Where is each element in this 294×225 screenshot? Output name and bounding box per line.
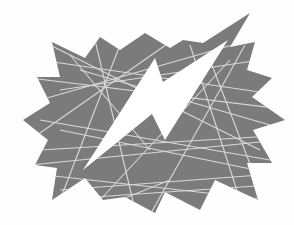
starburst-lightning-graphic <box>0 0 294 225</box>
logo-canvas: Gray jagged starburst crossed by thin li… <box>0 0 294 225</box>
